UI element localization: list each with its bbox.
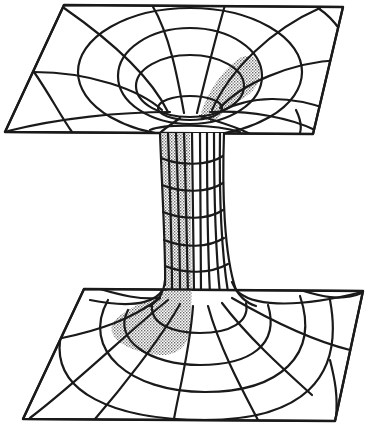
throat-tube [160, 133, 240, 295]
wormhole-svg [0, 0, 371, 429]
tube-meridian [200, 133, 201, 294]
upper-sheet [5, 5, 343, 136]
lower-sheet [23, 285, 363, 421]
wormhole-diagram [0, 0, 371, 429]
